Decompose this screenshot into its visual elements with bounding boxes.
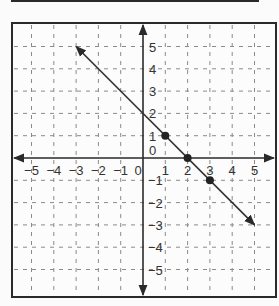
y-tick-label: −1 [148,173,163,188]
y-tick-label: 5 [149,40,156,55]
x-tick-label: −5 [24,163,39,178]
y-tick-label: 4 [149,62,156,77]
x-tick-label: 3 [206,163,213,178]
x-tick-label: 0 [134,163,141,178]
x-tick-label: 5 [251,163,258,178]
x-tick-label: −2 [91,163,106,178]
x-tick-label: −3 [69,163,84,178]
y-tick-label: 0 [149,143,156,158]
y-tick-label: −4 [148,240,163,255]
plot-frame [12,23,276,297]
x-tick-label: −1 [113,163,128,178]
y-tick-label: 1 [149,129,156,144]
y-tick-label: −5 [148,263,163,278]
y-tick-label: −3 [148,218,163,233]
y-tick-label: 2 [149,106,156,121]
data-point [206,176,214,184]
y-tick-label: 3 [149,84,156,99]
coordinate-plane: −5−4−3−2−1012345543210−1−2−3−4−5 [0,0,279,306]
data-point [184,154,192,162]
data-point [161,132,169,140]
x-tick-label: 4 [229,163,236,178]
y-tick-label: −2 [148,196,163,211]
x-tick-label: 2 [184,163,191,178]
x-tick-label: −4 [46,163,61,178]
